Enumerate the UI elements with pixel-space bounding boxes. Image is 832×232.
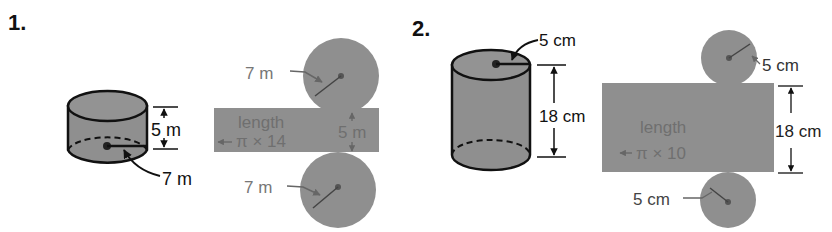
problem-2-cylinder <box>452 40 538 170</box>
problem-1-number: 1. <box>8 10 26 35</box>
problem-1-net-height-label: 5 m <box>338 123 366 142</box>
problem-1-net-bottom-radius-label: 7 m <box>244 178 272 197</box>
problem-1-net-top-radius-label: 7 m <box>245 64 273 83</box>
problem-1-net-length-label: length <box>238 113 284 132</box>
problem-1-net-length-formula: π × 14 <box>236 132 286 151</box>
lateral-rectangle <box>602 83 774 172</box>
problem-2-net-bottom-radius-label: 5 cm <box>633 190 670 209</box>
problem-2-net-length-label: length <box>640 118 686 137</box>
problem-2-net-top-radius-label: 5 cm <box>762 56 799 75</box>
problem-2-radius-label: 5 cm <box>539 31 576 50</box>
problem-2-height-label: 18 cm <box>539 107 585 126</box>
problem-2-net-height-label: 18 cm <box>775 122 821 141</box>
problem-2-net <box>602 30 774 228</box>
cylinder-nets-worksheet: 1. 5 m 7 m 7 m 7 m length π × 14 5 m 2. <box>0 0 832 232</box>
problem-2-net-length-formula: π × 10 <box>636 144 686 163</box>
problem-1-radius-label: 7 m <box>162 169 192 189</box>
problem-1-height-label: 5 m <box>151 120 181 140</box>
problem-2-number: 2. <box>412 16 430 41</box>
problem-1-cylinder <box>68 91 160 176</box>
